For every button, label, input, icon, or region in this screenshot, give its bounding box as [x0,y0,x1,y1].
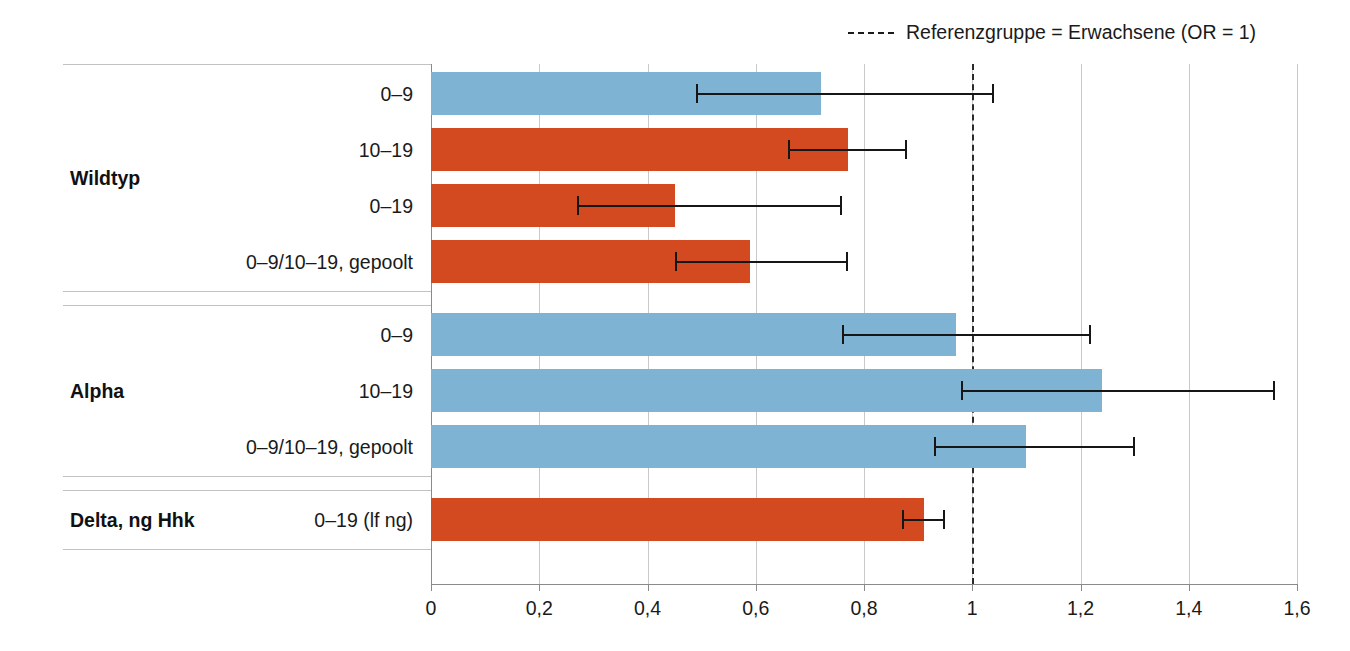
x-tick-mark [431,584,432,591]
error-bar-line [961,390,1275,392]
x-tick-mark [1297,584,1298,591]
dashed-line-icon [848,32,894,34]
row-label: 0–9/10–19, gepoolt [246,250,413,273]
plot-area [431,64,1297,584]
error-bar-cap-low [675,252,677,271]
error-bar-line [696,93,994,95]
x-tick-mark [539,584,540,591]
x-tick-label: 1,4 [1175,597,1202,620]
x-tick-label: 0,6 [742,597,769,620]
x-tick-label: 1,2 [1067,597,1094,620]
error-bar-cap-low [902,510,904,529]
error-bar-cap-low [961,381,963,400]
row-label: 0–9 [380,323,413,346]
row-label: 10–19 [359,138,413,161]
group-title: Wildtyp [70,166,140,189]
group-separator-rule [63,291,431,292]
gridline [1189,64,1190,584]
error-bar-cap-high [846,252,848,271]
group-separator-rule [63,549,431,550]
x-tick-label: 0 [426,597,437,620]
error-bar-cap-low [934,437,936,456]
group-separator-rule [63,490,431,491]
x-tick-mark [1189,584,1190,591]
error-bar-line [842,334,1091,336]
group-separator-rule [63,64,431,65]
x-tick-label: 0,2 [526,597,553,620]
group-separator-rule [63,305,431,306]
error-bar-line [788,149,907,151]
error-bar-line [577,205,842,207]
error-bar-cap-high [1133,437,1135,456]
error-bar-cap-high [1273,381,1275,400]
group-title: Alpha [70,379,124,402]
legend-label: Referenzgruppe = Erwachsene (OR = 1) [906,23,1256,43]
x-tick-mark [1081,584,1082,591]
x-tick-label: 0,8 [850,597,877,620]
x-tick-label: 1 [967,597,978,620]
x-tick-mark [756,584,757,591]
error-bar-cap-high [943,510,945,529]
group-title: Delta, ng Hhk [70,508,195,531]
x-tick-label: 0,4 [634,597,661,620]
gridline [1297,64,1298,584]
bar [431,128,848,171]
group-separator-rule [63,476,431,477]
row-label: 0–9 [380,82,413,105]
bar [431,498,924,541]
error-bar-cap-high [1089,325,1091,344]
gridline [1081,64,1082,584]
error-bar-line [675,261,848,263]
error-bar-cap-high [905,140,907,159]
row-label: 10–19 [359,379,413,402]
x-tick-mark [648,584,649,591]
x-tick-mark [864,584,865,591]
x-tick-mark [972,584,973,591]
row-label: 0–19 [370,194,413,217]
x-axis: 00,20,40,60,811,21,41,6 [431,584,1297,624]
error-bar-cap-high [840,196,842,215]
reference-line [972,64,974,584]
row-label: 0–9/10–19, gepoolt [246,435,413,458]
chart-root: Referenzgruppe = Erwachsene (OR = 1) 0–9… [0,0,1350,651]
error-bar-cap-low [788,140,790,159]
category-label-panel: 0–910–190–190–9/10–19, gepoolt0–910–190–… [0,0,431,651]
error-bar-cap-low [696,84,698,103]
error-bar-cap-low [842,325,844,344]
error-bar-cap-high [992,84,994,103]
chart-legend: Referenzgruppe = Erwachsene (OR = 1) [848,20,1256,46]
error-bar-line [902,519,945,521]
error-bar-line [934,446,1134,448]
row-label: 0–19 (lf ng) [314,508,413,531]
error-bar-cap-low [577,196,579,215]
x-tick-label: 1,6 [1283,597,1310,620]
